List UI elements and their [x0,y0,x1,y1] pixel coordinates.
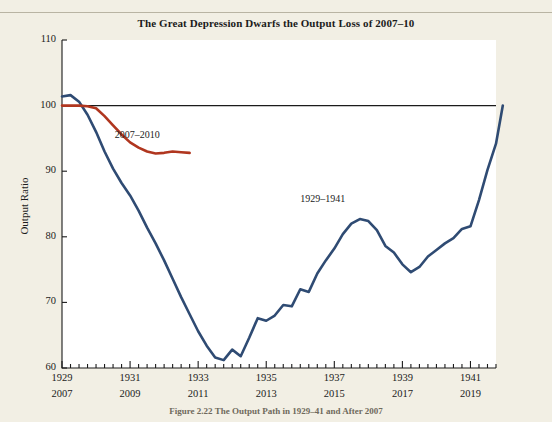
x-tick-label-year-depression: 1931 [107,372,153,383]
series-annotation-label: 1929–1941 [300,193,345,204]
x-tick-label-year-depression: 1939 [379,372,425,383]
x-tick-label-year-depression: 1933 [175,372,221,383]
y-tick-label: 110 [28,33,56,44]
x-tick-label-year-depression: 1937 [311,372,357,383]
series-annotation-label: 2007–2010 [115,129,160,140]
x-tick-label-year-modern: 2017 [379,388,425,399]
x-tick-label-year-depression: 1935 [243,372,289,383]
x-tick-label-year-depression: 1929 [39,372,85,383]
y-tick-label: 100 [28,99,56,110]
x-tick-label-year-modern: 2019 [447,388,493,399]
y-tick-label: 60 [28,361,56,372]
y-tick-label: 70 [28,295,56,306]
y-tick-label: 90 [28,164,56,175]
x-tick-label-year-modern: 2015 [311,388,357,399]
x-tick-label-year-modern: 2011 [175,388,221,399]
plot-background [62,40,496,368]
x-tick-label-year-modern: 2009 [107,388,153,399]
plot-area-wrapper: Output Ratio 60708090100110 192920071931… [0,0,552,422]
figure-container: The Great Depression Dwarfs the Output L… [0,0,552,422]
line-chart-svg [0,0,552,422]
x-tick-label-year-modern: 2007 [39,388,85,399]
figure-caption: Figure 2.22 The Output Path in 1929–41 a… [0,406,552,416]
x-tick-label-year-modern: 2013 [243,388,289,399]
x-tick-label-year-depression: 1941 [447,372,493,383]
y-tick-label: 80 [28,230,56,241]
